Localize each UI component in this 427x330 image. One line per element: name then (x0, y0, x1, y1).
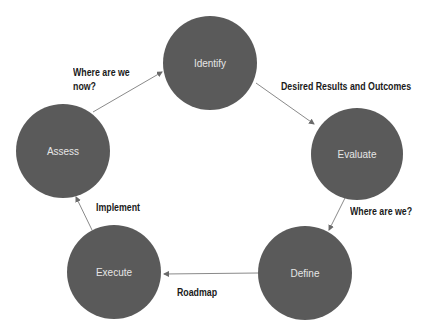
node-execute-label: Execute (96, 267, 133, 278)
arrow-define-to-execute (164, 273, 258, 274)
arrow-evaluate-to-define (329, 198, 345, 230)
node-define-label: Define (291, 268, 320, 279)
arrow-execute-to-assess (76, 197, 92, 230)
edge-label-line-1: Where are we (73, 66, 130, 80)
edge-label-desired-results: Desired Results and Outcomes (281, 80, 411, 94)
edge-label-line-2: now? (73, 80, 130, 94)
node-assess: Assess (16, 104, 110, 198)
edge-label-where-are-we: Where are we? (350, 205, 412, 219)
node-evaluate: Evaluate (311, 108, 403, 200)
cycle-diagram: Identify Evaluate Define Execute Assess (0, 0, 427, 330)
edge-label-implement: Implement (96, 201, 140, 215)
node-execute: Execute (67, 225, 161, 319)
node-identify-label: Identify (194, 58, 226, 69)
edge-label-where-are-we-now: Where are we now? (73, 66, 130, 94)
node-assess-label: Assess (47, 146, 79, 157)
edge-label-roadmap: Roadmap (177, 286, 217, 300)
node-evaluate-label: Evaluate (338, 149, 377, 160)
node-identify: Identify (163, 16, 257, 110)
node-define: Define (258, 226, 352, 320)
